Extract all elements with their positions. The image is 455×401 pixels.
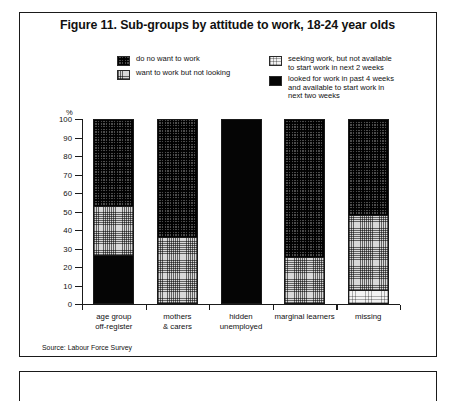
source-note: Source: Labour Force Survey — [42, 344, 132, 351]
legend-label-want-to-work-but-not-looking: want to work but not looking — [136, 69, 267, 78]
y-tick-mark — [75, 119, 82, 120]
y-tick-mark — [75, 304, 82, 305]
chart-legend: do no want to workwant to work but not l… — [117, 55, 407, 107]
y-tick-mark — [75, 138, 82, 139]
bars-layer — [82, 119, 400, 304]
x-tick-mark — [273, 305, 274, 310]
bar-segment — [349, 120, 388, 215]
y-tick-label: 100 — [42, 115, 72, 124]
bar-segment — [158, 120, 197, 237]
plot-area: % 1009080706050403020100 age group off-r… — [42, 108, 402, 338]
x-axis-line — [82, 304, 400, 305]
y-tick-label: 90 — [42, 133, 72, 142]
y-tick-mark — [75, 212, 82, 213]
bar-segment — [158, 237, 197, 303]
bar-segment — [285, 257, 324, 303]
bar-segment — [349, 215, 388, 290]
page-title: Figure 11. Sub-groups by attitude to wor… — [0, 18, 455, 32]
bar-column — [348, 119, 389, 304]
y-tick-mark — [75, 267, 82, 268]
legend-column-left: do no want to workwant to work but not l… — [117, 55, 267, 83]
y-tick-mark — [75, 230, 82, 231]
legend-swatch-do-no-want-to-work — [117, 56, 130, 66]
y-tick-mark — [75, 175, 82, 176]
y-tick-label: 20 — [42, 263, 72, 272]
y-tick-label: 0 — [42, 300, 72, 309]
legend-swatch-seeking-not-available — [269, 56, 282, 66]
y-tick-label: 30 — [42, 244, 72, 253]
bar-column — [157, 119, 198, 304]
x-tick-mark — [400, 305, 401, 310]
y-tick-mark — [75, 286, 82, 287]
y-tick-label: 40 — [42, 226, 72, 235]
x-tick-mark — [82, 305, 83, 310]
bar-segment — [222, 120, 261, 303]
x-axis-category-label: missing — [330, 312, 406, 322]
y-tick-mark — [75, 249, 82, 250]
y-tick-label: 60 — [42, 189, 72, 198]
x-tick-mark — [209, 305, 210, 310]
next-figure-box-partial — [19, 371, 437, 401]
legend-item-looked-and-available: looked for work in past 4 weeks and avai… — [269, 75, 411, 101]
legend-label-looked-and-available: looked for work in past 4 weeks and avai… — [288, 75, 411, 101]
bar-segment — [94, 255, 133, 303]
y-tick-mark — [75, 193, 82, 194]
x-tick-mark — [336, 305, 337, 310]
legend-swatch-looked-and-available — [269, 76, 282, 86]
legend-item-seeking-not-available: seeking work, but not available to start… — [269, 55, 411, 72]
y-tick-mark — [75, 156, 82, 157]
bar-column — [284, 119, 325, 304]
y-tick-label: 10 — [42, 281, 72, 290]
bar-column — [221, 119, 262, 304]
x-axis-labels: age group off-registermothers & carershi… — [82, 312, 400, 342]
legend-item-want-to-work-but-not-looking: want to work but not looking — [117, 69, 267, 80]
y-tick-label: 50 — [42, 207, 72, 216]
legend-item-do-no-want-to-work: do no want to work — [117, 55, 267, 66]
bar-segment — [94, 120, 133, 206]
bar-segment — [285, 120, 324, 257]
legend-swatch-want-to-work-but-not-looking — [117, 70, 130, 80]
legend-column-right: seeking work, but not available to start… — [269, 55, 411, 104]
y-tick-label: 80 — [42, 152, 72, 161]
bar-column — [93, 119, 134, 304]
bar-segment — [94, 206, 133, 255]
legend-label-seeking-not-available: seeking work, but not available to start… — [288, 55, 411, 72]
y-tick-label: 70 — [42, 170, 72, 179]
bar-segment — [349, 290, 388, 303]
x-tick-mark — [146, 305, 147, 310]
legend-label-do-no-want-to-work: do no want to work — [136, 55, 267, 64]
